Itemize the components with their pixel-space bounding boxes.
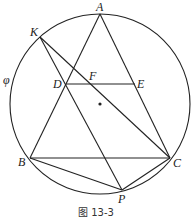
label-A: A (95, 0, 104, 14)
label-K: K (29, 25, 39, 39)
geometry-figure: A K φ D F E B C P 图 13-3 (0, 0, 193, 219)
label-D: D (52, 77, 62, 91)
label-phi: φ (3, 73, 10, 87)
segment-AC (100, 14, 170, 158)
label-E: E (136, 77, 145, 91)
center-dot (98, 102, 101, 105)
segment-AB (30, 14, 100, 158)
label-C: C (173, 156, 182, 170)
segment-KP (40, 37, 122, 190)
label-P: P (117, 192, 126, 206)
segment-PC (122, 158, 170, 190)
label-F: F (88, 69, 97, 83)
label-B: B (18, 155, 26, 169)
figure-caption: 图 13-3 (78, 207, 114, 218)
